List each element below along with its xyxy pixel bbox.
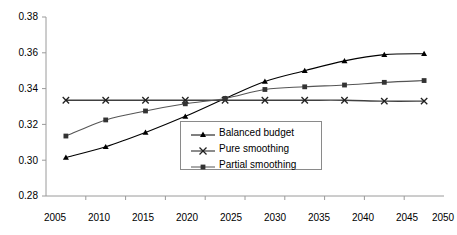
legend: Balanced budget Pure smoothing Partial s… bbox=[180, 121, 322, 170]
legend-item-pure-smoothing: Pure smoothing bbox=[181, 141, 323, 156]
series-pure-smoothing bbox=[63, 97, 428, 104]
y-axis-ticks bbox=[42, 17, 46, 196]
data-point-marker bbox=[382, 80, 387, 85]
legend-marker-triangle-icon bbox=[190, 127, 216, 139]
legend-label: Balanced budget bbox=[219, 127, 294, 138]
data-point-marker bbox=[182, 113, 188, 118]
data-point-marker bbox=[422, 78, 427, 83]
data-point-marker bbox=[103, 118, 108, 123]
legend-marker-square-icon bbox=[190, 159, 216, 171]
line-chart: 0.38 0.36 0.34 0.32 0.30 0.28 2005 2010 … bbox=[0, 0, 457, 235]
data-point-marker bbox=[302, 84, 307, 89]
series-line bbox=[66, 100, 424, 101]
data-point-marker bbox=[263, 87, 268, 92]
legend-marker-x-icon bbox=[190, 143, 216, 155]
data-point-marker bbox=[183, 101, 188, 106]
legend-label: Partial smoothing bbox=[219, 159, 296, 170]
data-point-marker bbox=[342, 83, 347, 88]
legend-item-partial-smoothing: Partial smoothing bbox=[181, 157, 323, 172]
x-axis-ticks bbox=[86, 196, 404, 200]
data-point-marker bbox=[143, 109, 148, 114]
legend-label: Pure smoothing bbox=[219, 143, 289, 154]
plot-area bbox=[0, 0, 457, 235]
data-point-marker bbox=[223, 96, 228, 101]
data-point-marker bbox=[64, 134, 69, 139]
legend-item-balanced-budget: Balanced budget bbox=[181, 125, 323, 140]
